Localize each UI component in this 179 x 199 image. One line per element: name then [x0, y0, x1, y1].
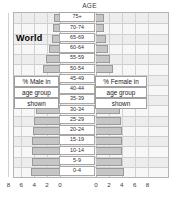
age-axis-title: AGE [0, 1, 179, 10]
x-axis-tick: 0 [94, 180, 97, 189]
bar-male [33, 127, 60, 135]
bar-female [96, 117, 121, 125]
age-group-label: 25-29 [59, 115, 95, 124]
age-group-label: 55-59 [59, 53, 95, 62]
x-axis-tick: 6 [133, 180, 136, 189]
bar-female [96, 14, 104, 22]
male-annotation: % Male in age group shown [14, 76, 59, 109]
x-axis-tick: 2 [45, 180, 48, 189]
bar-male [46, 55, 60, 63]
bar-female [96, 158, 122, 166]
female-annotation-line-3: shown [95, 98, 147, 109]
bar-female [96, 24, 104, 32]
x-axis-tick: 8 [7, 180, 10, 189]
female-annotation-line-2: age group [95, 87, 147, 98]
age-group-label: 70-74 [59, 23, 95, 32]
age-group-label: 65-69 [59, 33, 95, 42]
gridline-vertical [148, 13, 149, 177]
bar-female [96, 137, 122, 145]
bar-male [32, 158, 60, 166]
population-pyramid-chart: AGE 75+70-7465-6960-6455-5950-5445-4940-… [0, 0, 179, 199]
age-group-label: 40-44 [59, 84, 95, 93]
age-group-label: 10-14 [59, 146, 95, 155]
age-group-label: 45-49 [59, 74, 95, 83]
age-group-label: 35-39 [59, 94, 95, 103]
male-annotation-line-2: age group [14, 87, 59, 98]
bar-female [96, 147, 122, 155]
bar-male [34, 117, 60, 125]
gridline-vertical [8, 13, 9, 177]
female-annotation-line-1: % Female in [95, 76, 147, 87]
age-group-label: 50-54 [59, 64, 95, 73]
female-annotation: % Female in age group shown [95, 76, 147, 109]
age-group-label-column: 75+70-7465-6960-6455-5950-5445-4940-4435… [59, 12, 95, 178]
age-group-label: 60-64 [59, 43, 95, 52]
male-annotation-line-3: shown [14, 98, 59, 109]
x-axis-tick: 6 [20, 180, 23, 189]
bar-male [43, 65, 60, 73]
x-axis-tick: 8 [146, 180, 149, 189]
x-axis-tick: 2 [107, 180, 110, 189]
bar-male [31, 168, 60, 176]
bar-male [32, 147, 60, 155]
chart-title: World [16, 33, 42, 43]
age-group-label: 20-24 [59, 125, 95, 134]
age-group-label: 75+ [59, 12, 95, 21]
bar-female [96, 45, 108, 53]
x-axis-tick: 4 [32, 180, 35, 189]
bar-female [96, 65, 113, 73]
bar-male [32, 137, 60, 145]
bar-female [96, 35, 106, 43]
bar-female [96, 168, 124, 176]
x-axis-tick: 4 [120, 180, 123, 189]
bar-female [96, 55, 110, 63]
bar-female [96, 127, 122, 135]
x-axis-tick-labels: 8642002468 [0, 180, 179, 194]
age-group-label: 30-34 [59, 105, 95, 114]
age-group-label: 15-19 [59, 135, 95, 144]
male-annotation-line-1: % Male in [14, 76, 59, 87]
age-group-label: 5-9 [59, 156, 95, 165]
x-axis-tick: 0 [58, 180, 61, 189]
age-group-label: 0-4 [59, 166, 95, 175]
